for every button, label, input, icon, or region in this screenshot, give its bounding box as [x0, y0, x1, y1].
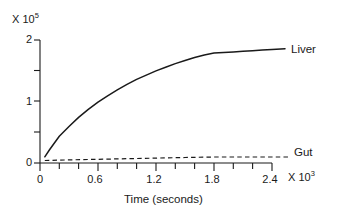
- x-axis-title: Time (seconds): [124, 194, 203, 206]
- x-axis-multiplier-base: 10: [298, 171, 310, 183]
- x-tick-label-1-2: 1.2: [139, 174, 169, 185]
- chart-figure: X 105 2 1 0 0 0.6 1.2 1.8 2.4 X 103 Time…: [0, 0, 350, 224]
- series-label-liver: Liver: [291, 44, 316, 56]
- chart-plot-area: [0, 0, 350, 224]
- series-line-gut: [45, 157, 288, 161]
- y-axis-multiplier-prefix: X: [12, 13, 19, 25]
- y-tick-label-1: 1: [18, 96, 32, 107]
- x-axis-multiplier-prefix: X: [288, 171, 295, 183]
- x-tick-label-1-8: 1.8: [197, 174, 227, 185]
- series-label-gut: Gut: [294, 147, 313, 159]
- x-axis-multiplier-exponent: 3: [311, 169, 315, 178]
- x-axis-multiplier-label: X 103: [288, 172, 315, 183]
- y-tick-label-2: 2: [18, 34, 32, 45]
- y-axis-multiplier-exponent: 5: [35, 11, 39, 20]
- x-tick-label-0: 0: [25, 174, 55, 185]
- y-axis-multiplier-base: 10: [22, 13, 34, 25]
- y-tick-label-0: 0: [18, 157, 32, 168]
- x-tick-label-0-6: 0.6: [80, 174, 110, 185]
- y-axis-major-ticks: [34, 40, 40, 163]
- series-line-liver: [45, 49, 285, 157]
- y-axis-multiplier-label: X 105: [12, 14, 39, 25]
- x-tick-label-2-4: 2.4: [255, 174, 285, 185]
- x-axis-major-ticks: [40, 163, 272, 171]
